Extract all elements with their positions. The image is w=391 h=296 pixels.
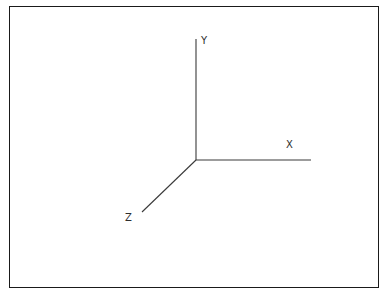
- y-axis-label: Y: [201, 36, 207, 46]
- axes-drawing: [0, 0, 391, 296]
- z-axis-line: [142, 160, 196, 212]
- diagram-canvas: Y X Z: [0, 0, 391, 296]
- x-axis-label: X: [286, 140, 293, 150]
- z-axis-label: Z: [125, 213, 132, 223]
